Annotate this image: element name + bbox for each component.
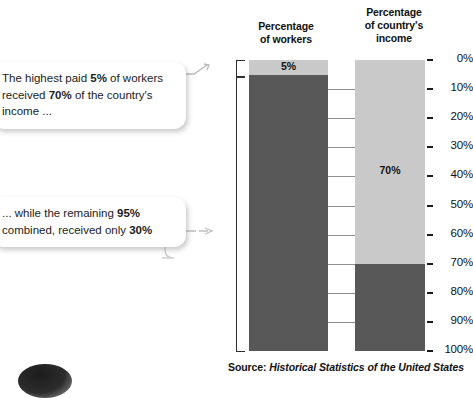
callout-2-bold-30pct: 30% bbox=[129, 224, 152, 236]
callout-1-bold-70pct: 70% bbox=[49, 89, 72, 101]
bar-segment-income-top70 bbox=[355, 60, 425, 264]
axis-tick-label-70: 70% bbox=[435, 256, 473, 268]
connector-line-30 bbox=[328, 147, 355, 148]
axis-tick-label-20: 20% bbox=[435, 110, 473, 122]
connector-line-40 bbox=[328, 176, 355, 177]
source-caption: Source: Historical Statistics of the Uni… bbox=[228, 361, 464, 373]
axis-tick-label-0: 0% bbox=[435, 52, 473, 64]
source-prefix: Source: bbox=[228, 361, 269, 373]
axis-tick-label-10: 10% bbox=[435, 81, 473, 93]
bar-label-workers-5pct: 5% bbox=[249, 60, 328, 72]
axis-tick-mark-30 bbox=[427, 146, 433, 148]
axis-tick-mark-60 bbox=[427, 234, 433, 236]
callout-1-bold-5pct: 5% bbox=[90, 72, 107, 84]
axis-tick-label-80: 80% bbox=[435, 285, 473, 297]
axis-tick-mark-90 bbox=[427, 321, 433, 323]
axis-tick-label-40: 40% bbox=[435, 168, 473, 180]
connector-line-10 bbox=[328, 89, 355, 90]
axis-tick-label-60: 60% bbox=[435, 227, 473, 239]
connector-line-60 bbox=[328, 235, 355, 236]
callout-1-prefix: The highest paid bbox=[2, 72, 90, 84]
connector-line-80 bbox=[328, 293, 355, 294]
connector-line-20 bbox=[328, 118, 355, 119]
axis-tick-label-50: 50% bbox=[435, 198, 473, 210]
axis-tick-mark-40 bbox=[427, 175, 433, 177]
connector-line-90 bbox=[328, 322, 355, 323]
axis-tick-label-90: 90% bbox=[435, 314, 473, 326]
bar-percentage-of-workers: 5% bbox=[249, 60, 328, 351]
callout-bubble-top: The highest paid 5% of workers received … bbox=[0, 62, 186, 129]
source-title: Historical Statistics of the United Stat… bbox=[269, 361, 464, 373]
axis-tick-mark-100 bbox=[427, 350, 433, 352]
callout-2-bold-95pct: 95% bbox=[117, 207, 140, 219]
callout-bubble-bottom: ... while the remaining 95% combined, re… bbox=[0, 197, 186, 247]
callout-2-middle: combined, received only bbox=[2, 224, 129, 236]
callout-2-prefix: ... while the remaining bbox=[2, 207, 117, 219]
axis-tick-mark-80 bbox=[427, 292, 433, 294]
connector-line-70 bbox=[328, 264, 355, 265]
axis-tick-mark-10 bbox=[427, 88, 433, 90]
axis-tick-mark-50 bbox=[427, 205, 433, 207]
axis-tick-label-30: 30% bbox=[435, 139, 473, 151]
connector-line-50 bbox=[328, 206, 355, 207]
bar-percentage-of-country-income: 70% bbox=[355, 60, 425, 351]
axis-tick-mark-0 bbox=[427, 59, 433, 61]
axis-tick-mark-70 bbox=[427, 263, 433, 265]
axis-tick-label-100: 100% bbox=[435, 343, 473, 355]
bar-segment-workers-bottom95 bbox=[249, 75, 328, 351]
bar-label-income-70pct: 70% bbox=[355, 164, 425, 176]
decorative-blob bbox=[18, 364, 72, 398]
axis-tick-mark-20 bbox=[427, 117, 433, 119]
bar-segment-income-bottom30 bbox=[355, 264, 425, 351]
percentage-axis: 0%10%20%30%40%50%60%70%80%90%100% bbox=[425, 55, 473, 360]
